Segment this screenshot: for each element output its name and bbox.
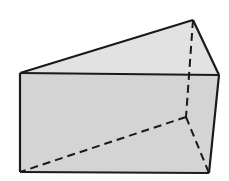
edge-front-bottom — [20, 172, 209, 173]
triangular-prism-diagram — [0, 0, 229, 181]
